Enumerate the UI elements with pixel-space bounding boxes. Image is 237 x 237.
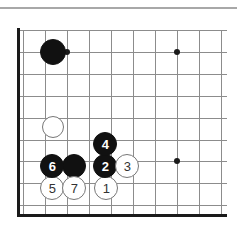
stone-move-7[interactable]: 7 bbox=[62, 176, 86, 200]
stone-label-move-6: 6 bbox=[49, 159, 56, 172]
stone-black-corner-stone[interactable] bbox=[40, 39, 66, 65]
stone-black-side-stone[interactable] bbox=[62, 154, 86, 178]
stone-move-2[interactable]: 2 bbox=[93, 154, 117, 178]
go-diagram-screenshot: 1234567 bbox=[0, 0, 237, 237]
stone-move-6[interactable]: 6 bbox=[40, 154, 64, 178]
stone-move-4[interactable]: 4 bbox=[93, 132, 117, 156]
stone-label-move-7: 7 bbox=[71, 181, 78, 194]
star-point-lower-right bbox=[174, 158, 180, 164]
stone-label-move-4: 4 bbox=[102, 137, 109, 150]
stone-white-approach-stone[interactable] bbox=[42, 116, 64, 138]
star-point-upper-right bbox=[174, 49, 180, 55]
stone-label-move-2: 2 bbox=[102, 159, 109, 172]
stone-move-3[interactable]: 3 bbox=[115, 154, 139, 178]
stone-move-1[interactable]: 1 bbox=[94, 176, 118, 200]
stone-label-move-1: 1 bbox=[103, 181, 110, 194]
stone-label-move-5: 5 bbox=[49, 181, 56, 194]
go-board bbox=[0, 0, 237, 237]
stone-label-move-3: 3 bbox=[124, 159, 131, 172]
go-board-grid bbox=[0, 0, 237, 237]
stone-move-5[interactable]: 5 bbox=[40, 176, 64, 200]
